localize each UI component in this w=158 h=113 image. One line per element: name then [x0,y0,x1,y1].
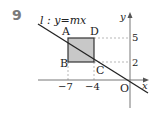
point-b-label: B [60,58,68,69]
coordinate-figure: 9 l : y=mx A D B C 5 2 −7 −4 O x y [0,0,158,113]
y-axis-label: y [120,12,126,22]
y-tick-5: 5 [132,33,138,43]
y-axis-arrow-icon [128,12,133,18]
x-axis-label: x [142,81,148,91]
point-d-label: D [90,26,99,37]
point-a-label: A [62,26,70,37]
rectangle-abcd [68,38,94,62]
x-tick-minus-4: −4 [85,82,100,92]
origin-label: O [120,83,129,94]
problem-number: 9 [12,7,22,23]
point-c-label: C [96,65,104,76]
y-tick-2: 2 [132,58,138,68]
x-tick-minus-7: −7 [58,82,73,92]
